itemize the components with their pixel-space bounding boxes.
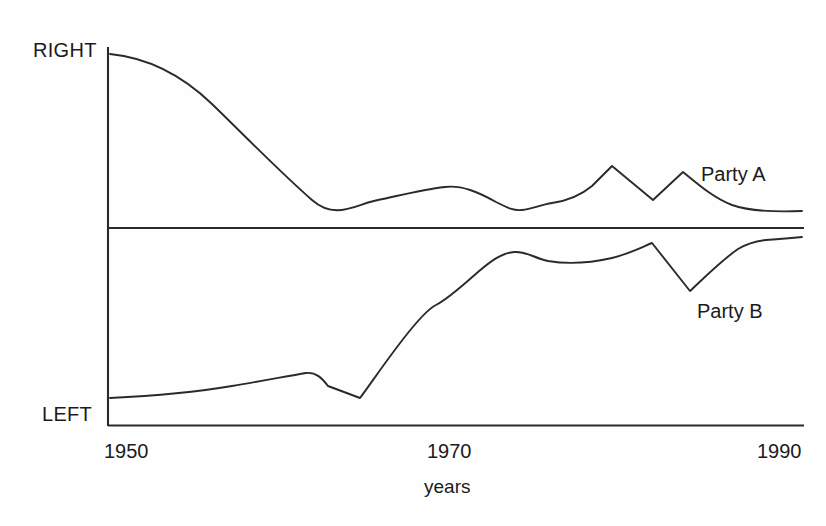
series-line-party-a (110, 54, 802, 211)
x-tick-label-1970: 1970 (427, 441, 472, 461)
y-axis-bottom-label: LEFT (42, 404, 92, 424)
series-label-party-a: Party A (701, 164, 765, 184)
x-axis-title: years (424, 477, 470, 496)
chart-figure: RIGHT LEFT 1950 1970 1990 years Party A … (0, 0, 826, 526)
series-label-party-b: Party B (697, 301, 763, 321)
x-tick-label-1950: 1950 (104, 441, 149, 461)
y-axis-top-label: RIGHT (33, 40, 97, 60)
x-tick-label-1990: 1990 (757, 441, 802, 461)
